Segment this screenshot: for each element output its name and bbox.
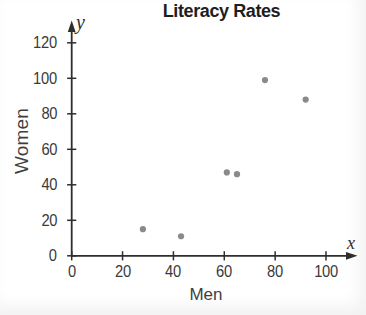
data-point	[224, 169, 230, 175]
y-tick-label: 20	[41, 213, 57, 229]
y-tick-label: 0	[49, 248, 57, 264]
x-tick-label: 40	[165, 264, 181, 280]
data-point	[303, 97, 309, 103]
x-tick-label: 0	[68, 264, 76, 280]
y-tick-label: 40	[41, 177, 57, 193]
x-tick-label: 20	[115, 264, 131, 280]
data-point	[234, 171, 240, 177]
y-tick-label: 100	[33, 71, 57, 87]
data-point	[140, 226, 146, 232]
y-tick-label: 120	[33, 35, 57, 51]
data-point	[178, 233, 184, 239]
data-point	[262, 77, 268, 83]
y-tick-label: 80	[41, 106, 57, 122]
x-tick-label: 100	[314, 264, 338, 280]
y-tick-label: 60	[41, 142, 57, 158]
scatter-plot-figure: Literacy Rates y x Women Men 02040608010…	[0, 0, 366, 315]
y-axis-arrowhead	[68, 21, 76, 33]
x-tick-label: 60	[216, 264, 232, 280]
x-axis-arrowhead	[346, 252, 358, 260]
x-tick-label: 80	[267, 264, 283, 280]
